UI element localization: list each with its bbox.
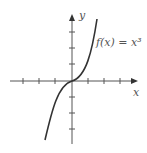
- x-axis-arrow-icon: [131, 78, 138, 84]
- y-axis-arrow-icon: [69, 14, 75, 21]
- cubic-curve: [45, 19, 97, 140]
- cubic-function-graph: y x f(x) = x³: [0, 0, 147, 153]
- y-axis-label: y: [78, 9, 86, 22]
- function-label: f(x) = x³: [95, 36, 142, 49]
- x-axis-label: x: [133, 86, 140, 99]
